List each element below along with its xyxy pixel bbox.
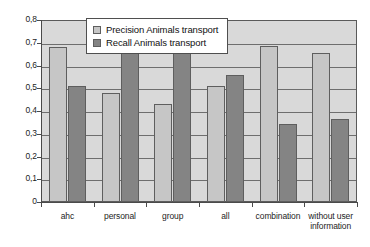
bar-chart: 0,80,70,60,50,40,30,20,10 ahcpersonalgro… [0,0,370,247]
y-axis-tick-label: 0,7 [25,37,37,47]
x-axis-tick [304,203,305,207]
bar-precision [49,47,67,202]
x-axis-tick-label: ahc [41,211,94,221]
gridline [42,112,356,113]
bar-precision [207,86,225,202]
bar-recall [173,48,191,202]
gridline [42,67,356,68]
bar-recall [121,46,139,202]
x-axis-tick [146,203,147,207]
legend: Precision Animals transport Recall Anima… [86,18,228,54]
x-axis-tick [94,203,95,207]
legend-item: Precision Animals transport [93,23,218,36]
bar-precision [312,53,330,202]
y-axis-tick-label: 0,8 [25,14,37,24]
y-axis-tick [37,88,41,89]
y-axis-tick [37,43,41,44]
bar-precision [260,46,278,202]
bar-precision [102,93,120,202]
bar-precision [154,104,172,202]
y-axis-tick [37,20,41,21]
y-axis-tick [37,66,41,67]
y-axis-tick-label: 0,2 [25,151,37,161]
legend-label-precision: Precision Animals transport [106,24,218,35]
legend-label-recall: Recall Animals transport [106,37,206,48]
x-axis-tick [252,203,253,207]
legend-item: Recall Animals transport [93,36,218,49]
gridline [42,135,356,136]
x-axis-tick-label: personal [94,211,147,221]
x-axis-tick [357,203,358,207]
y-axis-tick [37,111,41,112]
x-axis-tick-label: all [199,211,252,221]
y-axis-tick [37,134,41,135]
bar-recall [331,119,349,202]
y-axis-tick-label: 0,5 [25,82,37,92]
legend-swatch-precision-icon [93,26,101,34]
x-axis-tick [199,203,200,207]
y-axis-tick-label: 0,1 [25,173,37,183]
gridline [42,180,356,181]
x-axis-tick-label: group [146,211,199,221]
y-axis-tick [37,157,41,158]
bar-recall [226,75,244,202]
x-axis-tick [41,203,42,207]
y-axis-line [41,20,42,203]
bar-recall [68,86,86,202]
y-axis-tick-label: 0,6 [25,60,37,70]
y-axis-tick-label: 0,3 [25,128,37,138]
legend-swatch-recall-icon [93,39,101,47]
x-axis-tick-label: combination [252,211,305,221]
gridline [42,158,356,159]
y-axis-tick [37,179,41,180]
gridline [42,89,356,90]
bar-recall [279,124,297,202]
y-axis-tick-label: 0 [32,196,37,206]
x-axis-tick-label: without user information [304,211,357,231]
y-axis-tick-label: 0,4 [25,105,37,115]
